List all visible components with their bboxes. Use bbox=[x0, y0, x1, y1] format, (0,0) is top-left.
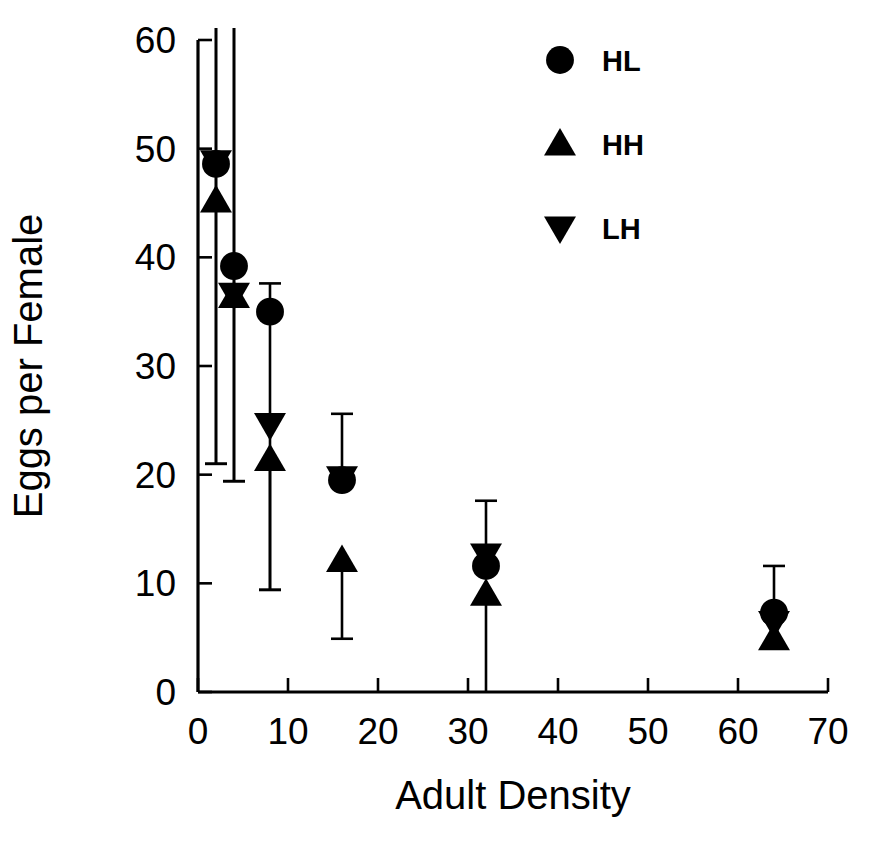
legend-item-HH: HH bbox=[544, 128, 644, 161]
legend-marker-triangle-down bbox=[544, 216, 576, 244]
chart-figure: 0102030405060010203040506070 Adult Densi… bbox=[0, 0, 893, 856]
y-tick-label: 10 bbox=[135, 563, 176, 604]
x-tick-label: 10 bbox=[267, 711, 308, 752]
legend-marker-triangle-up bbox=[544, 128, 576, 156]
x-tick-label: 70 bbox=[807, 711, 848, 752]
x-tick-label: 50 bbox=[627, 711, 668, 752]
data-point-HH bbox=[326, 545, 358, 573]
series-HL bbox=[202, 28, 788, 627]
y-tick-label: 40 bbox=[135, 237, 176, 278]
data-point-HH bbox=[200, 185, 232, 213]
series-HH bbox=[200, 28, 790, 692]
y-tick-label: 20 bbox=[135, 455, 176, 496]
data-point-LH bbox=[758, 611, 790, 639]
y-tick-label: 0 bbox=[155, 672, 176, 713]
data-point-LH bbox=[254, 413, 286, 441]
x-tick-label: 0 bbox=[188, 711, 209, 752]
x-tick-label: 20 bbox=[357, 711, 398, 752]
x-axis-title: Adult Density bbox=[395, 773, 631, 817]
legend-label: HH bbox=[602, 129, 644, 161]
y-axis-title: Eggs per Female bbox=[6, 214, 50, 519]
data-point-HH bbox=[254, 443, 286, 471]
scatter-plot-canvas: 0102030405060010203040506070 Adult Densi… bbox=[0, 0, 893, 856]
legend-item-LH: LH bbox=[544, 213, 641, 245]
data-point-HL bbox=[256, 298, 284, 326]
data-point-HH bbox=[470, 578, 502, 606]
x-tick-label: 30 bbox=[447, 711, 488, 752]
tick-labels-group: 0102030405060010203040506070 bbox=[135, 20, 849, 752]
legend-group: HLHHLH bbox=[544, 45, 644, 245]
legend-label: HL bbox=[602, 45, 641, 77]
y-tick-label: 30 bbox=[135, 346, 176, 387]
legend-label: LH bbox=[602, 213, 641, 245]
data-clusters bbox=[200, 28, 790, 692]
x-tick-label: 40 bbox=[537, 711, 578, 752]
legend-item-HL: HL bbox=[546, 45, 641, 77]
legend-marker-circle bbox=[546, 46, 574, 74]
y-tick-label: 50 bbox=[135, 129, 176, 170]
axes-group bbox=[198, 40, 828, 692]
x-tick-label: 60 bbox=[717, 711, 758, 752]
y-tick-label: 60 bbox=[135, 20, 176, 61]
